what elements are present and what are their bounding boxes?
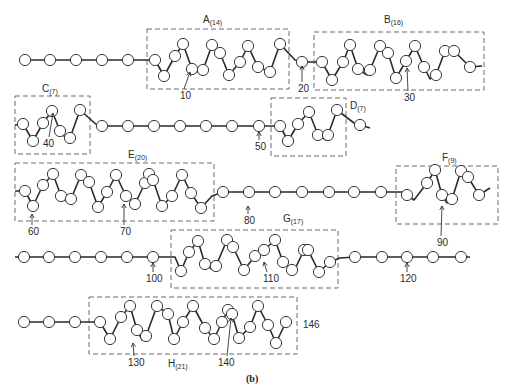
residue-node — [349, 251, 360, 262]
residue-node — [96, 54, 107, 65]
residue-node — [18, 316, 29, 327]
residue-node — [65, 193, 76, 204]
residue-node — [446, 193, 457, 204]
residue-node — [430, 69, 441, 80]
residue-node — [199, 322, 210, 333]
residue-node — [455, 251, 466, 262]
residue-node — [233, 332, 244, 343]
residue-number-60: 60 — [28, 226, 40, 237]
residue-node — [124, 300, 135, 311]
residue-node — [344, 39, 355, 50]
residue-number-30: 30 — [404, 92, 416, 103]
residue-node — [74, 104, 85, 115]
residue-node — [122, 54, 133, 65]
residue-number-50: 50 — [255, 141, 267, 152]
residue-node — [292, 118, 303, 129]
end-residue-label: 146 — [303, 319, 320, 330]
residue-node — [400, 55, 411, 66]
residue-node — [296, 186, 307, 197]
residue-node — [313, 266, 324, 277]
residue-node — [199, 258, 210, 269]
residue-node — [147, 251, 158, 262]
residue-node — [409, 40, 420, 51]
residue-node — [95, 251, 106, 262]
residue-node — [147, 174, 158, 185]
residue-number-100: 100 — [146, 273, 163, 284]
residue-node — [323, 186, 334, 197]
residue-node — [64, 132, 75, 143]
residue-node — [166, 190, 177, 201]
residue-node — [169, 50, 180, 61]
residue-node — [18, 251, 29, 262]
residue-node — [162, 308, 173, 319]
residue-node — [352, 63, 363, 74]
residue-node — [69, 316, 80, 327]
residue-node — [401, 251, 412, 262]
residue-node — [324, 256, 335, 267]
residue-node — [258, 244, 269, 255]
residue-node — [448, 45, 459, 56]
residue-node — [227, 241, 238, 252]
residue-node — [104, 333, 115, 344]
residue-node — [69, 251, 80, 262]
residue-nodes — [17, 38, 484, 348]
residue-number-130: 130 — [128, 357, 145, 368]
residue-node — [54, 125, 65, 136]
residue-node — [168, 333, 179, 344]
residue-node — [37, 117, 48, 128]
residue-node — [148, 120, 159, 131]
helix-label-d: D(7) — [350, 100, 366, 113]
residue-node — [286, 264, 297, 275]
residue-node — [302, 244, 313, 255]
residue-number-140: 140 — [218, 357, 235, 368]
residue-node — [243, 186, 254, 197]
residue-node — [421, 177, 432, 188]
residue-node — [214, 47, 225, 58]
residue-node — [110, 169, 121, 180]
residue-node — [262, 319, 273, 330]
residue-node — [303, 106, 314, 117]
residue-node — [473, 189, 484, 200]
residue-node — [277, 256, 288, 267]
residue-node — [44, 54, 55, 65]
protein-chain-diagram: 102030405060708090100110120130140 A(14)B… — [0, 0, 512, 388]
residue-node — [83, 176, 94, 187]
residue-node — [92, 201, 103, 212]
residue-node — [120, 190, 131, 201]
residue-node — [270, 337, 281, 348]
residue-node — [19, 185, 30, 196]
residue-node — [252, 300, 263, 311]
residue-node — [176, 169, 187, 180]
residue-number-10: 10 — [180, 90, 192, 101]
residue-node — [37, 179, 48, 190]
residue-node — [121, 251, 132, 262]
residue-node — [269, 186, 280, 197]
residue-node — [158, 70, 169, 81]
residue-node — [427, 251, 438, 262]
residue-node — [27, 200, 38, 211]
residue-node — [316, 56, 327, 67]
residue-node — [238, 264, 249, 275]
residue-node — [192, 235, 203, 246]
residue-node — [216, 316, 227, 327]
residue-node — [17, 118, 28, 129]
residue-node — [242, 40, 253, 51]
residue-node — [208, 333, 219, 344]
residue-node — [280, 316, 291, 327]
residue-node — [464, 61, 475, 72]
residue-node — [197, 64, 208, 75]
residue-number-110: 110 — [263, 273, 279, 284]
residue-node — [223, 69, 234, 80]
residue-node — [195, 202, 206, 213]
residue-node — [177, 316, 188, 327]
residue-node — [252, 61, 263, 72]
residue-node — [462, 171, 473, 182]
residue-node — [429, 164, 440, 175]
residue-node — [226, 120, 237, 131]
residue-node — [282, 135, 293, 146]
residue-node — [331, 104, 342, 115]
residue-number-80: 80 — [244, 215, 256, 226]
helix-label-c: C(7) — [42, 83, 58, 96]
residue-node — [96, 120, 107, 131]
residue-node — [348, 186, 359, 197]
